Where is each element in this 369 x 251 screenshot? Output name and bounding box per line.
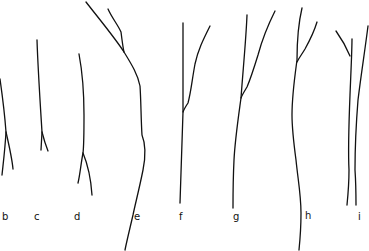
tracing-d-stroke-1 [83, 153, 92, 195]
tracing-d-stroke-0 [78, 54, 84, 183]
tracing-f-stroke-0 [180, 23, 183, 203]
tracing-h-stroke-0 [292, 8, 302, 250]
panel-label-f: f [179, 212, 183, 222]
tracing-i [336, 26, 368, 205]
panel-label-d: d [74, 212, 80, 222]
tracing-c-stroke-1 [42, 132, 48, 151]
tracing-g [233, 11, 275, 208]
tracing-f [180, 23, 210, 203]
panel-label-g: g [233, 212, 239, 222]
panel-label-c: c [34, 212, 40, 222]
line-drawing-figure [0, 0, 369, 251]
tracing-b-stroke-0 [0, 79, 6, 175]
tracing-i-stroke-2 [355, 26, 368, 205]
tracing-i-stroke-1 [347, 39, 352, 205]
tracing-f-stroke-1 [183, 26, 210, 112]
tracings-group [0, 2, 368, 250]
tracing-g-stroke-0 [233, 15, 247, 208]
tracing-d [78, 54, 92, 195]
tracing-b [0, 79, 13, 175]
tracing-i-stroke-0 [336, 31, 350, 56]
panel-label-i: i [358, 212, 361, 222]
panel-label-e: e [134, 212, 140, 222]
tracing-h-stroke-1 [297, 22, 317, 62]
tracing-c-stroke-0 [37, 40, 42, 150]
panel-label-b: b [2, 212, 8, 222]
panel-label-h: h [305, 211, 311, 221]
tracing-b-stroke-1 [6, 132, 13, 169]
tracing-c [37, 40, 48, 151]
tracing-e-stroke-1 [108, 9, 124, 52]
